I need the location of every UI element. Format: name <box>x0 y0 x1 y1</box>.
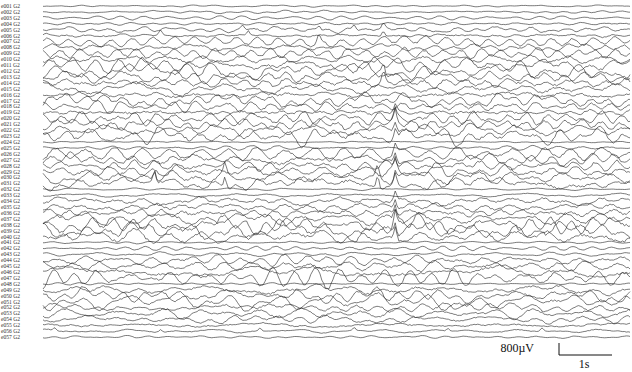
channel-trace <box>43 193 630 197</box>
channel-trace <box>43 104 630 116</box>
channel-trace <box>43 35 630 47</box>
scale-bar: 800µV 1s <box>500 341 612 371</box>
channel-trace <box>43 283 630 285</box>
channel-trace <box>43 22 630 25</box>
channel-label: e057 G2 <box>1 334 20 340</box>
channel-trace <box>43 10 630 14</box>
channel-trace <box>43 122 630 138</box>
channel-trace <box>43 315 630 324</box>
channel-trace <box>43 159 630 172</box>
channel-trace <box>43 209 630 226</box>
channel-trace <box>43 191 630 206</box>
channel-trace <box>43 30 630 38</box>
channel-trace <box>43 284 630 296</box>
eeg-chart: e001 G2e002 G2e003 G2e004 G2e005 G2e006 … <box>0 0 632 372</box>
channel-trace <box>43 152 630 167</box>
channel-trace <box>43 246 630 250</box>
channel-trace <box>43 292 630 312</box>
channel-trace <box>43 61 630 80</box>
channel-trace <box>43 322 630 327</box>
channel-labels: e001 G2e002 G2e003 G2e004 G2e005 G2e006 … <box>1 3 20 340</box>
channel-trace <box>43 252 630 257</box>
channel-trace <box>43 16 630 20</box>
channel-trace <box>43 328 630 334</box>
channel-trace <box>43 91 630 97</box>
channel-trace <box>43 227 630 244</box>
channel-trace <box>43 65 630 83</box>
channel-trace <box>43 126 630 148</box>
channel-trace <box>43 141 630 143</box>
channel-trace <box>43 143 630 161</box>
channel-trace <box>43 100 630 113</box>
channel-trace <box>43 156 630 177</box>
channel-trace <box>43 336 630 339</box>
channel-trace <box>43 200 630 212</box>
scale-time-label: 1s <box>579 357 590 371</box>
channel-trace <box>43 23 630 33</box>
channel-trace <box>43 267 630 289</box>
scale-bar-lines <box>559 343 612 355</box>
channel-traces <box>43 5 630 338</box>
channel-trace <box>43 261 630 273</box>
channel-trace <box>43 108 630 130</box>
channel-trace <box>43 188 630 191</box>
scale-amplitude-label: 800µV <box>500 341 534 355</box>
channel-trace <box>43 5 630 7</box>
channel-trace <box>43 303 630 313</box>
